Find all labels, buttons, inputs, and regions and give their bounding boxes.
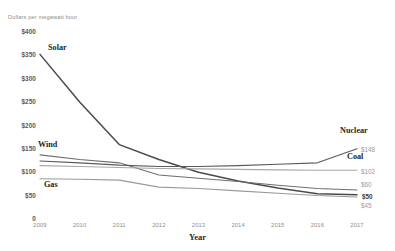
series-label-nuclear: Nuclear	[340, 126, 368, 135]
value-label-nuclear: $148	[361, 145, 375, 152]
x-tick-label: 2010	[73, 222, 86, 228]
x-tick-label: 2015	[271, 222, 284, 228]
x-tick-label: 2016	[311, 222, 324, 228]
series-label-wind: Wind	[38, 140, 57, 149]
series-label-gas: Gas	[44, 180, 58, 189]
plot-area	[0, 0, 395, 251]
value-label-gas: $45	[361, 201, 372, 208]
line-chart: Dollars per megawatt hour $400$350$300$2…	[0, 0, 395, 251]
series-label-solar: Solar	[48, 43, 67, 52]
value-label-wind: $60	[361, 180, 372, 187]
series-line-solar	[40, 54, 357, 194]
x-tick-label: 2011	[113, 222, 126, 228]
x-tick-label: 2012	[152, 222, 165, 228]
x-axis-title: Year	[0, 232, 395, 242]
series-label-coal: Coal	[347, 152, 363, 161]
x-tick-label: 2017	[350, 222, 363, 228]
x-tick-label: 2014	[231, 222, 244, 228]
value-label-coal: $102	[361, 168, 375, 175]
series-line-nuclear	[40, 149, 357, 167]
value-label-solar: $50	[362, 192, 373, 199]
x-tick-label: 2013	[192, 222, 205, 228]
x-tick-label: 2009	[33, 222, 46, 228]
